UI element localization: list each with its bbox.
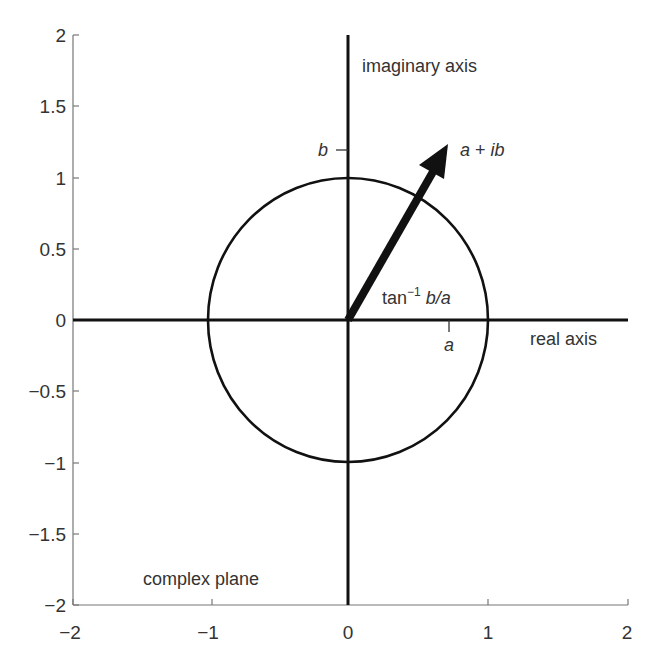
angle-label-exponent: −1 <box>407 285 421 299</box>
real-axis-label: real axis <box>530 329 597 349</box>
x-tick-labels: −2 −1 0 1 2 <box>59 622 632 643</box>
vector-label-ib: ib <box>491 140 505 160</box>
y-tick-label: 1.5 <box>40 96 66 117</box>
complex-plane-chart: 2 1.5 1 0.5 0 −0.5 −1 −1.5 −2 −2 −1 0 1 … <box>0 0 648 655</box>
y-tick-label: −0.5 <box>28 381 66 402</box>
angle-label-ratio: b/a <box>426 288 451 308</box>
y-tick-label: −1.5 <box>28 524 66 545</box>
b-label: b <box>318 140 328 160</box>
y-tick-label: −2 <box>44 595 66 616</box>
y-tick-label: 0.5 <box>40 239 66 260</box>
complex-plane-label: complex plane <box>143 569 259 589</box>
vector-label-plus: + <box>470 140 491 160</box>
x-tick-label: 0 <box>343 622 354 643</box>
a-label: a <box>444 335 454 355</box>
vector-label: a + ib <box>460 140 505 160</box>
y-tick-labels: 2 1.5 1 0.5 0 −0.5 −1 −1.5 −2 <box>28 25 66 616</box>
x-tick-label: −1 <box>197 622 219 643</box>
y-tick-label: 1 <box>55 168 66 189</box>
y-tick-label: 0 <box>55 310 66 331</box>
imaginary-axis-label: imaginary axis <box>362 56 477 76</box>
y-tick-label: −1 <box>44 453 66 474</box>
angle-label: tan−1b/a <box>382 285 451 308</box>
x-tick-label: −2 <box>59 622 81 643</box>
x-tick-label: 2 <box>622 622 633 643</box>
y-tick-label: 2 <box>55 25 66 46</box>
angle-label-tan: tan <box>382 288 407 308</box>
x-tick-label: 1 <box>483 622 494 643</box>
vector-label-a: a <box>460 140 470 160</box>
